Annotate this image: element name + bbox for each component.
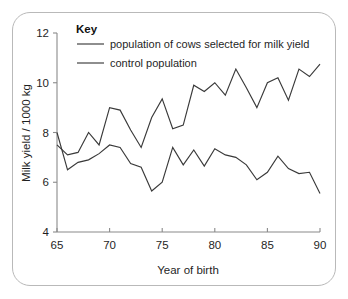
legend-title: Key	[76, 23, 98, 35]
y-tick-label: 10	[36, 77, 49, 89]
y-tick-label: 4	[43, 226, 50, 238]
x-tick-label: 75	[156, 239, 169, 251]
legend-label-selected-population: population of cows selected for milk yie…	[110, 38, 309, 50]
y-tick-label: 6	[43, 176, 49, 188]
x-tick-label: 85	[261, 239, 274, 251]
x-tick-label: 70	[103, 239, 116, 251]
x-tick-label: 90	[314, 239, 327, 251]
chart-legend: Key population of cows selected for milk…	[76, 23, 309, 69]
y-tick-label: 12	[36, 27, 49, 39]
x-tick-label: 65	[51, 239, 64, 251]
x-tick-label: 80	[208, 239, 221, 251]
y-tick-label: 8	[43, 127, 49, 139]
y-tick-group: 4681012	[36, 27, 57, 238]
x-axis-title: Year of birth	[157, 264, 219, 276]
y-axis-title: Milk yield / 1000 kg	[20, 84, 32, 182]
legend-label-control-population: control population	[110, 57, 197, 69]
chart-canvas: 4681012 657075808590 Key population of c…	[0, 0, 348, 299]
series-group	[57, 64, 320, 193]
figure-root: 4681012 657075808590 Key population of c…	[0, 0, 348, 299]
series-line-selected-population	[57, 64, 320, 155]
